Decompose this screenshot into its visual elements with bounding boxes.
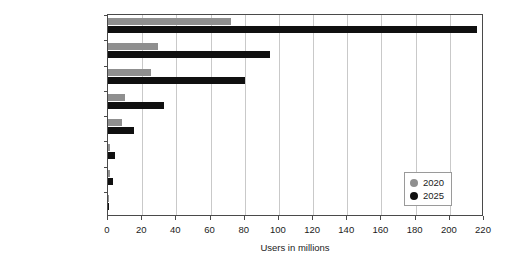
legend-item-2020: 2020 [410,176,444,189]
bar-group [108,91,482,116]
bar-2020 [108,43,158,50]
x-axis-tick [483,216,484,220]
bar-group [108,116,482,141]
bar-2025 [108,152,115,159]
bar-2020 [108,195,109,202]
x-axis-tick [210,216,211,220]
x-axis-tick [175,216,176,220]
y-axis-tick [104,15,108,16]
bar-2025 [108,26,477,33]
bar-group [108,66,482,91]
y-axis-tick [104,40,108,41]
bar-2020 [108,18,231,25]
x-axis-title: Users in millions [107,242,483,253]
x-axis-tick [244,216,245,220]
legend-swatch-circle-icon [410,192,418,200]
y-axis-tick [104,167,108,168]
y-axis-tick [104,66,108,67]
bar-2025 [108,51,270,58]
bar-2025 [108,178,113,185]
bar-2025 [108,203,109,210]
bar-2025 [108,127,134,134]
bar-group [108,15,482,40]
x-axis-tick [278,216,279,220]
bar-group [108,40,482,65]
bar-group [108,141,482,166]
bar-2020 [108,94,125,101]
x-axis-tick [415,216,416,220]
bar-2020 [108,119,122,126]
legend-swatch-circle-icon [410,179,418,187]
legend-item-2025: 2025 [410,189,444,202]
x-axis-tick [449,216,450,220]
bar-2020 [108,170,110,177]
legend-label: 2025 [423,190,444,201]
bar-2025 [108,77,245,84]
bar-chart: Video gamesLive eventsVideo entertainmen… [0,0,515,266]
y-axis-tick [104,91,108,92]
y-axis-tick [104,116,108,117]
bar-2020 [108,69,151,76]
x-axis-tick-label: 220 [463,224,503,235]
legend-label: 2020 [423,177,444,188]
x-axis-tick [380,216,381,220]
x-axis-tick [107,216,108,220]
bar-2025 [108,102,164,109]
y-axis-tick [104,141,108,142]
x-axis-tick [346,216,347,220]
x-axis-tick [312,216,313,220]
y-axis-tick [104,192,108,193]
x-axis-tick [141,216,142,220]
bar-2020 [108,144,110,151]
chart-legend: 2020 2025 [404,172,452,206]
